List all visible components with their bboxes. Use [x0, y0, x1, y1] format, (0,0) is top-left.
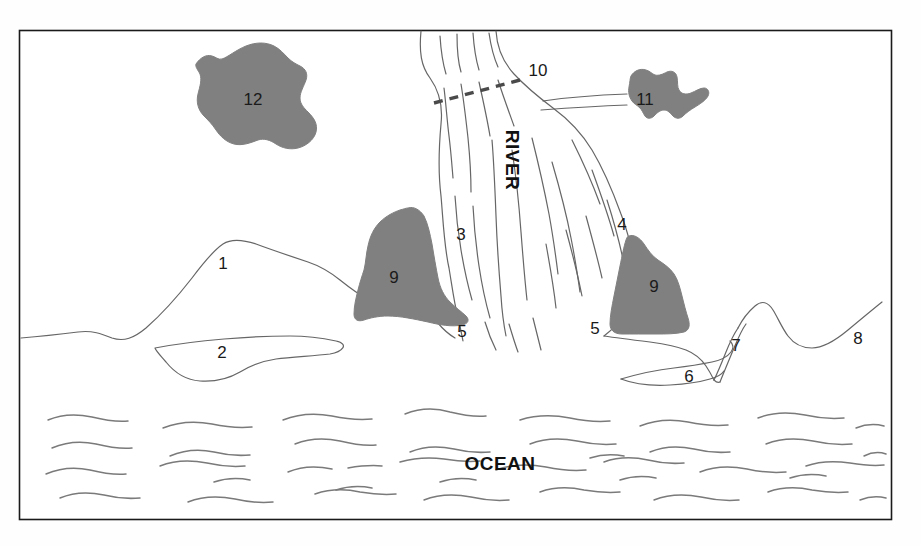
- map-canvas: 1 2 3 4 5 5 6 7 8 9 9 10 11 12 RIVER OCE…: [0, 0, 921, 546]
- label-2: 2: [217, 343, 226, 362]
- label-8: 8: [853, 329, 862, 348]
- estuary-diagram: 1 2 3 4 5 5 6 7 8 9 9 10 11 12 RIVER OCE…: [0, 0, 921, 546]
- label-3: 3: [456, 225, 465, 244]
- label-10: 10: [529, 61, 548, 80]
- label-11: 11: [636, 90, 654, 109]
- label-river: RIVER: [502, 130, 523, 191]
- label-9-right: 9: [649, 277, 658, 296]
- label-6: 6: [684, 367, 693, 386]
- label-7: 7: [731, 336, 740, 355]
- label-5-right: 5: [590, 319, 599, 338]
- map-frame: [20, 31, 892, 520]
- label-9-left: 9: [389, 268, 398, 287]
- label-ocean: OCEAN: [464, 453, 535, 474]
- label-12: 12: [244, 90, 263, 109]
- label-1: 1: [218, 254, 227, 273]
- label-4: 4: [617, 215, 626, 234]
- label-5-left: 5: [457, 322, 466, 341]
